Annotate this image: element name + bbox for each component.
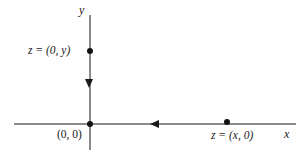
y-axis-label: y — [79, 4, 84, 16]
arrowhead-down-icon — [85, 79, 93, 88]
complex-plane-figure: y x z = (0, y) (0, 0) z = (x, 0) — [0, 0, 307, 157]
x-axis-label: x — [284, 128, 289, 140]
point-marker-origin — [87, 121, 93, 127]
arrowhead-left-icon — [150, 120, 159, 128]
imaginary-point-label: z = (0, y) — [28, 45, 70, 57]
point-marker-imaginary — [87, 48, 93, 54]
real-point-label: z = (x, 0) — [211, 130, 253, 142]
origin-label: (0, 0) — [57, 129, 82, 141]
point-marker-real — [224, 119, 230, 125]
